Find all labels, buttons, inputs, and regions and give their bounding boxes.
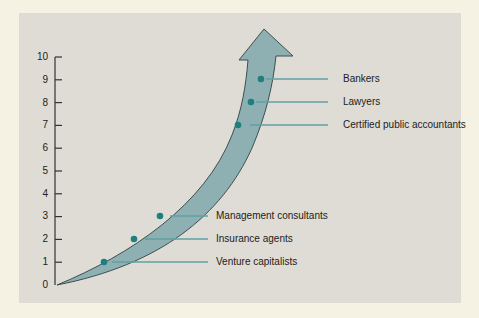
y-tick-9: 9 bbox=[18, 74, 48, 86]
diagram-canvas bbox=[0, 0, 479, 318]
y-tick-3: 3 bbox=[18, 210, 48, 222]
label-management-consultants: Management consultants bbox=[216, 210, 328, 222]
y-tick-1: 1 bbox=[18, 256, 48, 268]
dot-management-consultants bbox=[157, 213, 164, 220]
y-tick-2: 2 bbox=[18, 233, 48, 245]
y-tick-8: 8 bbox=[18, 97, 48, 109]
y-axis bbox=[55, 57, 62, 285]
y-tick-0: 0 bbox=[18, 279, 48, 291]
label-venture-capitalists: Venture capitalists bbox=[216, 256, 297, 268]
label-bankers: Bankers bbox=[343, 73, 380, 85]
y-tick-4: 4 bbox=[18, 188, 48, 200]
label-insurance-agents: Insurance agents bbox=[216, 233, 293, 245]
y-tick-5: 5 bbox=[18, 165, 48, 177]
label-cpa: Certified public accountants bbox=[343, 119, 466, 131]
growth-arrow-icon bbox=[57, 29, 293, 285]
dot-insurance-agents bbox=[131, 236, 138, 243]
dot-venture-capitalists bbox=[101, 259, 108, 266]
dot-cpa bbox=[235, 122, 242, 129]
dot-lawyers bbox=[248, 99, 255, 106]
y-tick-7: 7 bbox=[18, 119, 48, 131]
y-tick-10: 10 bbox=[18, 51, 48, 63]
dot-bankers bbox=[258, 76, 265, 83]
y-tick-6: 6 bbox=[18, 142, 48, 154]
label-lawyers: Lawyers bbox=[343, 96, 380, 108]
